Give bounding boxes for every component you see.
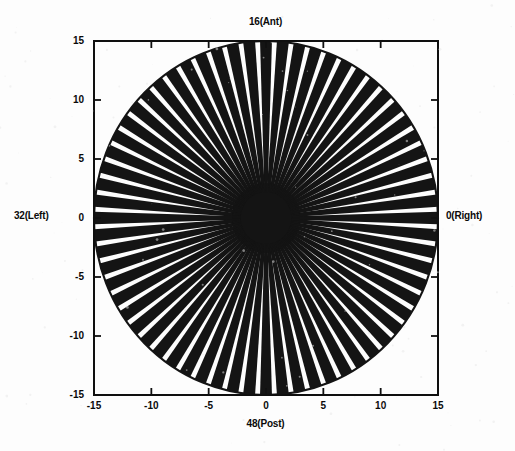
x-tick-label: -10 (131, 400, 171, 411)
y-tick-label: 5 (52, 153, 84, 164)
core-blob (241, 192, 292, 244)
y-tick-label: 15 (52, 35, 84, 46)
y-tick-label: -5 (52, 271, 84, 282)
center-core (232, 183, 300, 253)
y-tick-label: 0 (52, 212, 84, 223)
figure-canvas: 16(Ant) 48(Post) 32(Left) 0(Right) 15105… (0, 0, 515, 451)
x-tick-label: 10 (361, 400, 401, 411)
x-tick-label: -5 (189, 400, 229, 411)
x-tick-label: 5 (303, 400, 343, 411)
x-tick-label: 15 (418, 400, 458, 411)
x-tick-label: 0 (246, 400, 286, 411)
radial-fan-plot (0, 0, 515, 451)
y-tick-label: -10 (52, 330, 84, 341)
y-tick-label: -15 (52, 389, 84, 400)
x-tick-label: -15 (74, 400, 114, 411)
y-tick-label: 10 (52, 94, 84, 105)
